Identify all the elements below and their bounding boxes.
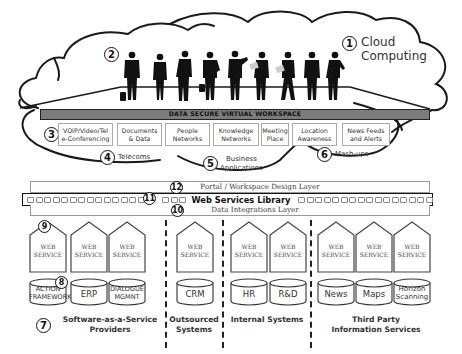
library-slot-icon (341, 197, 348, 203)
business-applications-label: Business Applications (220, 155, 263, 173)
web-service-label: WEBSERVICE (70, 243, 108, 259)
library-slot-icon (349, 197, 356, 203)
library-slot-icon (171, 197, 178, 203)
callout-10: 10 (171, 204, 184, 217)
service-box-documents[interactable]: Documents & Data (117, 123, 162, 146)
person-3 (176, 51, 192, 101)
database-erp[interactable]: ERP (70, 278, 108, 306)
library-slot-icon (358, 197, 365, 203)
library-slot-icon (129, 197, 136, 203)
library-slot-icon (366, 197, 373, 203)
portal-design-layer[interactable]: Portal / Workspace Design Layer (30, 181, 430, 193)
service-box-location-awareness[interactable]: Location Awareness (292, 123, 337, 146)
person-5 (228, 51, 248, 100)
library-slot-icon (392, 197, 399, 203)
web-service-label: WEBSERVICE (355, 243, 393, 259)
business-line2: Applications (220, 164, 263, 173)
service-box-meeting-place[interactable]: Meeting Place (261, 123, 289, 146)
web-service-box[interactable]: WEBSERVICE (317, 221, 355, 273)
group-label-outsourced: OutsourcedSystems (168, 315, 220, 335)
group-divider (310, 220, 312, 348)
library-slot-icon (95, 197, 102, 203)
web-service-box[interactable]: WEBSERVICE (355, 221, 393, 273)
library-slot-icon (315, 197, 322, 203)
database-maps[interactable]: Maps (355, 278, 393, 306)
web-service-label: WEBSERVICE (393, 243, 431, 259)
service-line2: e-Conferencing (59, 135, 112, 143)
service-line1: News Feeds (343, 127, 389, 135)
library-slot-icon (409, 197, 416, 203)
database-rnd[interactable]: R&D (269, 278, 307, 306)
person-4 (199, 52, 220, 100)
service-line2: Networks (166, 135, 209, 143)
library-slot-icon (307, 197, 314, 203)
business-line1: Business (220, 155, 263, 164)
service-line1: Documents (118, 127, 161, 135)
web-service-label: WEBSERVICE (230, 243, 268, 259)
database-label: Maps (355, 286, 393, 302)
person-8 (304, 52, 320, 100)
database-label: ERP (70, 286, 108, 302)
service-line1: People (166, 127, 209, 135)
person-9 (326, 52, 345, 100)
group-label-saas: Software-as-a-ServiceProviders (56, 315, 164, 335)
library-slot-icon (324, 197, 331, 203)
web-service-label: WEBSERVICE (317, 243, 355, 259)
database-crm[interactable]: CRM (176, 278, 214, 306)
library-slot-icon (332, 197, 339, 203)
data-secure-workspace-bar: DATA SECURE VIRTUAL WORKSPACE (40, 109, 430, 120)
web-service-box[interactable]: WEBSERVICE (108, 221, 146, 273)
portal-layer-label: Portal / Workspace Design Layer (140, 182, 319, 191)
web-service-box[interactable]: WEBSERVICE (70, 221, 108, 273)
service-box-news-feeds[interactable]: News Feeds and Alerts (342, 123, 390, 146)
service-box-knowledge-networks[interactable]: Knowledge Networks (213, 123, 259, 146)
mashups-label: Mash-ups (335, 150, 368, 159)
library-slot-icon (162, 197, 169, 203)
person-1 (120, 52, 140, 101)
web-service-box[interactable]: WEBSERVICE (230, 221, 268, 273)
web-service-label: WEBSERVICE (108, 243, 146, 259)
service-line1: Location (293, 127, 336, 135)
cloud-computing-title: Cloud Computing (361, 35, 427, 63)
service-box-people-networks[interactable]: People Networks (165, 123, 210, 146)
service-line2: Place (262, 135, 288, 143)
service-line1: VOIP/Video/Tel (59, 127, 112, 135)
library-slot-icon (53, 197, 60, 203)
database-label: R&D (269, 286, 307, 302)
service-box-voip[interactable]: VOIP/Video/Tel e-Conferencing (58, 123, 113, 146)
web-service-box[interactable]: WEBSERVICE (393, 221, 431, 273)
people-silhouettes (120, 51, 345, 101)
cloud-title-line1: Cloud (361, 35, 427, 49)
library-slot-icon (426, 197, 433, 203)
web-services-library-title: Web Services Library (192, 195, 291, 205)
database-hr[interactable]: HR (230, 278, 268, 306)
library-slot-icon (417, 197, 424, 203)
web-service-box[interactable]: WEBSERVICE (269, 221, 307, 273)
library-slot-icon (383, 197, 390, 203)
callout-5: 5 (203, 156, 218, 171)
library-slot-icon (121, 197, 128, 203)
group-label-internal: Internal Systems (226, 315, 308, 325)
callout-6: 6 (317, 147, 332, 162)
person-6 (249, 52, 269, 100)
library-slot-icon (27, 197, 34, 203)
database-dialogue-mgmnt[interactable]: DIALOGUEMGMNT (108, 278, 146, 306)
library-slot-icon (298, 197, 305, 203)
service-line1: Meeting (262, 127, 288, 135)
database-horizon-scanning[interactable]: HorizonScanning (393, 278, 431, 306)
library-slot-icon (400, 197, 407, 203)
library-slot-icon (70, 197, 77, 203)
callout-1: 1 (342, 36, 357, 51)
callout-7: 7 (36, 318, 51, 333)
database-label: CRM (176, 286, 214, 302)
web-service-box[interactable]: WEBSERVICE (176, 221, 214, 273)
telecoms-label: Telecoms (118, 153, 150, 162)
library-slot-icon (87, 197, 94, 203)
library-slot-icon (78, 197, 85, 203)
library-slot-icon (375, 197, 382, 203)
data-integrations-layer[interactable]: Data Integrations Layer (30, 205, 430, 216)
database-label: News (317, 286, 355, 302)
database-news[interactable]: News (317, 278, 355, 306)
web-service-label: WEBSERVICE (269, 243, 307, 259)
group-divider (222, 220, 224, 348)
